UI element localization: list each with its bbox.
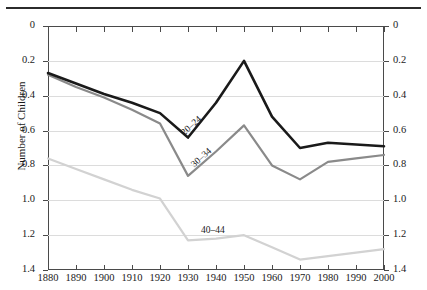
chart-figure: 1.41.21.00.80.60.40.20 1.41.21.00.80.60.… — [0, 0, 427, 290]
series-label-40-44: 40–44 — [201, 226, 225, 236]
series-line-30-34 — [48, 75, 384, 180]
series-layer — [0, 0, 427, 290]
series-line-20-24 — [48, 61, 384, 148]
series-line-40-44 — [48, 158, 384, 259]
